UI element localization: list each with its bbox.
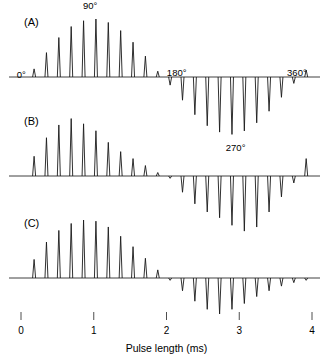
peak-a-13 <box>181 77 184 100</box>
peak-a-6 <box>94 19 97 77</box>
peak-a-8 <box>119 31 122 77</box>
peak-b-5 <box>82 124 85 176</box>
peak-c-15 <box>206 278 209 309</box>
peak-c-2 <box>45 242 48 278</box>
peak-b-10 <box>144 166 147 176</box>
peak-a-14 <box>193 77 196 115</box>
peak-c-1 <box>33 259 36 278</box>
panel-c <box>9 220 320 314</box>
peak-a-10 <box>144 56 147 77</box>
x-axis-title: Pulse length (ms) <box>126 342 208 354</box>
panel-label-a: (A) <box>24 16 39 28</box>
peak-a-7 <box>107 22 110 77</box>
peak-c-11 <box>156 270 159 278</box>
flip-angle-360: 360° <box>287 67 307 78</box>
peak-a-3 <box>57 38 60 77</box>
peak-c-5 <box>82 220 85 278</box>
peak-b-6 <box>94 131 97 176</box>
peak-c-20 <box>268 278 271 291</box>
x-tick-label-2: 2 <box>164 325 170 336</box>
panel-a <box>9 19 320 134</box>
peak-a-21 <box>280 77 283 97</box>
peak-a-5 <box>82 21 85 77</box>
peak-a-15 <box>206 77 209 126</box>
peak-b-11 <box>156 173 159 176</box>
flip-angle-180: 180° <box>167 67 187 78</box>
peak-b-4 <box>70 119 73 176</box>
panel-label-c: (C) <box>24 217 39 229</box>
panel-b <box>9 119 320 232</box>
peak-c-4 <box>70 223 73 278</box>
peak-c-14 <box>193 278 196 301</box>
peak-b-21 <box>280 176 283 197</box>
flip-angle-270: 270° <box>226 142 246 153</box>
peak-b-22 <box>292 176 295 183</box>
nutation-figure: 01234Pulse length (ms) (A)(B)(C)0°90°180… <box>0 0 328 354</box>
peak-b-19 <box>255 176 258 227</box>
peak-c-6 <box>94 221 97 278</box>
peak-c-13 <box>181 278 184 291</box>
peak-c-10 <box>144 258 147 278</box>
peak-b-3 <box>57 125 60 176</box>
x-tick-label-1: 1 <box>91 325 97 336</box>
peak-b-8 <box>119 152 122 176</box>
peak-b-2 <box>45 138 48 176</box>
peak-c-21 <box>280 278 283 286</box>
peak-b-18 <box>243 176 246 231</box>
peak-a-17 <box>230 77 233 134</box>
peak-c-22 <box>292 278 295 283</box>
peak-b-15 <box>206 176 209 212</box>
peak-b-23 <box>305 159 308 176</box>
peak-b-17 <box>230 176 233 225</box>
peak-a-2 <box>45 53 48 77</box>
figure-labels: (A)(B)(C)0°90°180°270°360° <box>17 0 307 229</box>
peak-a-18 <box>243 77 246 131</box>
peak-c-9 <box>132 247 135 278</box>
peak-c-17 <box>230 278 233 309</box>
peak-c-19 <box>255 278 258 297</box>
peak-c-16 <box>218 278 221 314</box>
panel-label-b: (B) <box>24 115 39 127</box>
peak-c-8 <box>119 236 122 278</box>
peak-b-14 <box>193 176 196 204</box>
peak-c-3 <box>57 230 60 278</box>
peak-a-1 <box>33 69 36 77</box>
peak-a-11 <box>156 71 159 77</box>
figure-canvas: 01234Pulse length (ms) (A)(B)(C)0°90°180… <box>0 0 328 354</box>
peak-a-19 <box>255 77 258 123</box>
x-tick-label-4: 4 <box>309 325 315 336</box>
peak-b-16 <box>218 176 221 218</box>
x-tick-label-3: 3 <box>236 325 242 336</box>
peak-b-7 <box>107 142 110 176</box>
peak-a-16 <box>218 77 221 132</box>
x-axis: 01234Pulse length (ms) <box>18 312 315 354</box>
peak-b-1 <box>33 156 36 176</box>
peak-a-4 <box>70 27 73 77</box>
peak-c-7 <box>107 227 110 278</box>
x-tick-label-0: 0 <box>18 325 24 336</box>
peak-b-13 <box>181 176 184 192</box>
peak-b-9 <box>132 159 135 176</box>
peak-a-9 <box>132 42 135 77</box>
peak-a-20 <box>268 77 271 111</box>
flip-angle-0: 0° <box>17 69 26 80</box>
peak-b-20 <box>268 176 271 212</box>
peak-c-18 <box>243 278 246 304</box>
flip-angle-90: 90° <box>83 0 98 11</box>
